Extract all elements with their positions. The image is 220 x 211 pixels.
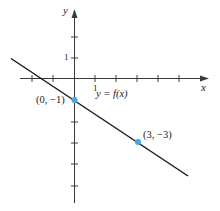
- x-axis-label: x: [201, 82, 206, 93]
- point-label-3-neg3: (3, −3): [143, 130, 172, 141]
- function-label: y = f(x): [96, 89, 128, 100]
- y-axis-label: y: [63, 5, 68, 16]
- point-3-neg3: [135, 139, 141, 145]
- y-axis-arrow-icon: [72, 9, 78, 18]
- graph-canvas: [0, 0, 220, 211]
- point-0-neg1: [72, 97, 78, 103]
- function-line: [11, 59, 188, 177]
- point-label-0-neg1: (0, −1): [36, 95, 65, 106]
- y-tick-label-1: 1: [64, 53, 69, 62]
